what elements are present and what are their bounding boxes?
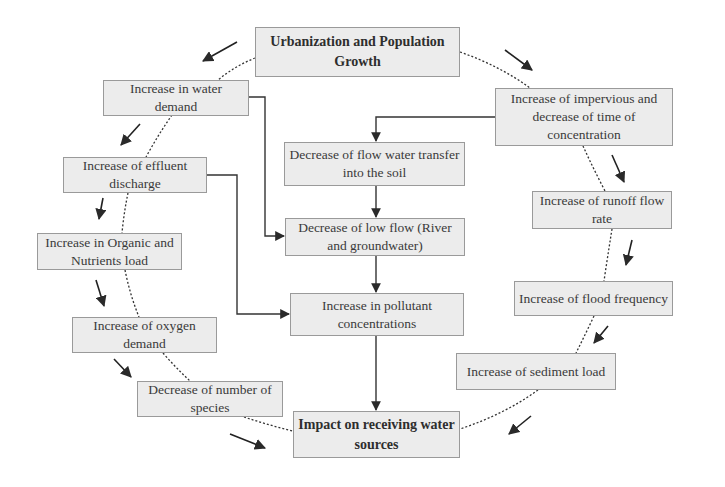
node-pollutant: Increase in pollutant concentrations (290, 293, 464, 336)
arrow-icon (114, 359, 131, 377)
urbanization-impact-diagram: Urbanization and Population Growth Incre… (0, 0, 725, 487)
node-flow-transfer: Decrease of flow water transfer into the… (284, 142, 465, 186)
node-urbanization: Urbanization and Population Growth (255, 27, 460, 77)
arrow-icon (612, 155, 624, 182)
node-impervious: Increase of impervious and decrease of t… (495, 88, 673, 146)
node-sediment: Increase of sediment load (456, 353, 616, 390)
impervious-to-flow-transfer-line (376, 117, 495, 141)
node-effluent-discharge: Increase of effluent discharge (63, 157, 207, 193)
water-demand-to-low-flow-line (249, 97, 284, 236)
arrow-icon (121, 124, 140, 145)
node-oxygen-demand: Increase of oxygen demand (72, 317, 217, 353)
arrow-icon (230, 434, 265, 448)
arrow-icon (509, 416, 531, 434)
arrow-icon (626, 240, 632, 265)
effluent-to-pollutant-line (207, 175, 289, 314)
arrow-icon (203, 42, 237, 61)
node-species: Decrease of number of species (137, 381, 283, 417)
node-flood: Increase of flood frequency (514, 281, 673, 316)
node-organic-nutrients: Increase in Organic and Nutrients load (37, 233, 182, 270)
arrow-icon (99, 198, 103, 219)
arrow-icon (594, 326, 608, 343)
arrow-icon (505, 50, 532, 70)
arrow-icon (96, 280, 104, 306)
node-impact: Impact on receiving water sources (293, 411, 460, 458)
node-runoff: Increase of runoff flow rate (532, 191, 672, 229)
node-low-flow: Decrease of low flow (River and groundwa… (285, 218, 465, 256)
node-water-demand: Increase in water demand (103, 80, 249, 116)
